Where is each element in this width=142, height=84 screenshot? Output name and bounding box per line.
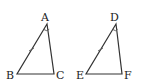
- vertex-label-b: B: [6, 69, 14, 82]
- triangle-def: D E F: [76, 11, 132, 82]
- triangle-abc: A B C: [6, 11, 64, 82]
- vertex-label-e: E: [76, 69, 84, 82]
- angle-mark-a: [44, 29, 49, 30]
- triangle-abc-outline: [17, 24, 54, 74]
- vertex-label-d: D: [110, 11, 119, 24]
- geometry-diagram: A B C D E F: [0, 0, 142, 84]
- triangle-def-outline: [86, 24, 122, 74]
- vertex-label-f: F: [124, 69, 132, 82]
- vertex-label-a: A: [40, 11, 50, 24]
- vertex-label-c: C: [56, 69, 64, 82]
